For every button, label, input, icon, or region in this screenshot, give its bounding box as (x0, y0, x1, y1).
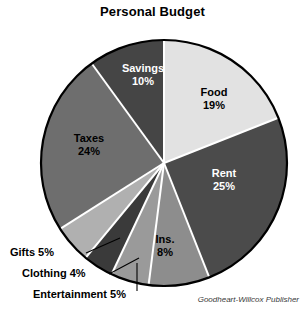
publisher-credit: Goodheart-Willcox Publisher (198, 295, 299, 304)
callout-clothing: Clothing 4% (22, 267, 86, 279)
pie-chart-figure: Personal Budget Food 19% Rent 25% Ins. 8… (0, 0, 305, 320)
callout-gifts: Gifts 5% (10, 246, 54, 258)
callout-entertainment: Entertainment 5% (33, 288, 126, 300)
